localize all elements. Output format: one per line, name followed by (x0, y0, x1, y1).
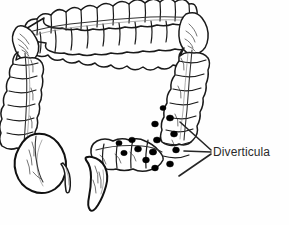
diverticulum-dot (166, 115, 173, 121)
colon-illustration: .outline { fill:#ffffff; stroke:#1a1a1a;… (0, 0, 289, 225)
diverticulum-dot (143, 157, 150, 163)
diverticulum-dot (149, 149, 156, 155)
diverticula-label: Diverticula (213, 145, 270, 159)
diverticulum-dot (135, 146, 142, 152)
diverticulum-dot (153, 137, 160, 143)
diverticulum-dot (116, 140, 122, 145)
diverticulum-dot (121, 150, 127, 155)
diverticulum-dot (167, 161, 174, 167)
leader-middle (184, 151, 211, 152)
diverticulum-dot (152, 121, 159, 127)
diverticulum-dot (171, 131, 178, 137)
diverticulum-dot (160, 106, 166, 111)
diverticulum-dot (173, 147, 180, 153)
cecum-group (15, 134, 67, 193)
diverticula-figure: .outline { fill:#ffffff; stroke:#1a1a1a;… (0, 0, 289, 225)
diverticulum-dot (152, 165, 159, 171)
diverticulum-dot (129, 137, 136, 143)
